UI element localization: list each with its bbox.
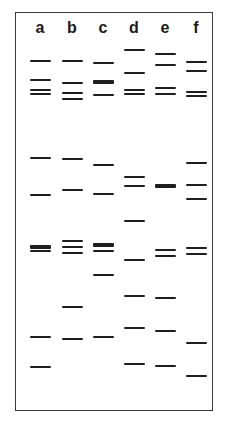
band-d-4: [124, 93, 145, 95]
band-e-8: [155, 297, 176, 299]
band-e-5: [155, 184, 176, 188]
band-b-5: [62, 158, 83, 160]
band-b-11: [62, 338, 83, 340]
band-b-6: [62, 189, 83, 191]
band-b-4: [62, 98, 83, 100]
band-d-9: [124, 295, 145, 297]
gel-frame: [15, 12, 213, 411]
band-d-2: [124, 72, 145, 74]
band-c-6: [93, 243, 114, 247]
band-c-8: [93, 274, 114, 276]
band-a-6: [30, 194, 51, 196]
band-e-4: [155, 93, 176, 95]
band-b-1: [62, 60, 83, 62]
band-b-9: [62, 252, 83, 254]
band-d-1: [124, 49, 145, 51]
band-b-2: [62, 82, 83, 84]
lane-label-f: f: [184, 19, 208, 37]
band-e-3: [155, 87, 176, 89]
band-f-3: [186, 91, 207, 93]
lane-label-a: a: [28, 19, 52, 37]
band-c-3: [93, 94, 114, 96]
band-f-8: [186, 247, 207, 249]
band-d-10: [124, 327, 145, 329]
band-c-2: [93, 80, 114, 84]
lane-label-d: d: [122, 19, 146, 37]
band-f-1: [186, 61, 207, 63]
band-d-8: [124, 259, 145, 261]
band-a-5: [30, 157, 51, 159]
band-e-7: [155, 255, 176, 257]
band-a-9: [30, 336, 51, 338]
band-a-1: [30, 60, 51, 62]
band-f-9: [186, 253, 207, 255]
band-a-8: [30, 250, 51, 252]
band-d-3: [124, 89, 145, 91]
band-e-9: [155, 330, 176, 332]
band-c-1: [93, 62, 114, 64]
band-e-10: [155, 365, 176, 367]
band-d-11: [124, 363, 145, 365]
band-c-5: [93, 193, 114, 195]
band-b-8: [62, 246, 83, 248]
band-c-9: [93, 336, 114, 338]
lane-label-e: e: [153, 19, 177, 37]
band-f-10: [186, 342, 207, 344]
band-a-3: [30, 89, 51, 91]
band-c-4: [93, 164, 114, 166]
band-b-7: [62, 240, 83, 242]
band-b-3: [62, 92, 83, 94]
band-d-6: [124, 185, 145, 187]
band-a-2: [30, 79, 51, 81]
band-e-6: [155, 249, 176, 251]
band-e-1: [155, 53, 176, 55]
band-a-7: [30, 245, 51, 249]
band-d-5: [124, 176, 145, 178]
band-e-2: [155, 64, 176, 66]
band-a-10: [30, 366, 51, 368]
lane-label-b: b: [60, 19, 84, 37]
band-c-7: [93, 250, 114, 252]
band-b-10: [62, 306, 83, 308]
lane-label-c: c: [91, 19, 115, 37]
band-f-2: [186, 70, 207, 72]
band-a-4: [30, 93, 51, 95]
band-d-7: [124, 220, 145, 222]
band-f-5: [186, 162, 207, 164]
band-f-6: [186, 184, 207, 186]
band-f-4: [186, 95, 207, 97]
band-f-11: [186, 375, 207, 377]
band-f-7: [186, 198, 207, 200]
